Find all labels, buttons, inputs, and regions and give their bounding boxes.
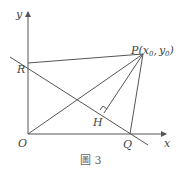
segment-pq: [130, 54, 143, 134]
segment-pr: [28, 54, 143, 63]
point-r-label: R: [16, 63, 25, 76]
figure-caption: 圖 3: [80, 154, 102, 167]
point-h-label: H: [92, 116, 103, 129]
origin-label: O: [18, 137, 27, 150]
y-axis-label: y: [15, 8, 23, 21]
point-p-label: P(x0,y0): [130, 44, 174, 58]
x-axis-label: x: [164, 137, 171, 150]
geometry-diagram: y x O R Q H P(x0,y0) 圖 3: [0, 0, 179, 177]
segment-po: [28, 54, 143, 134]
segment-ph: [104, 54, 143, 113]
point-q-label: Q: [123, 138, 132, 151]
